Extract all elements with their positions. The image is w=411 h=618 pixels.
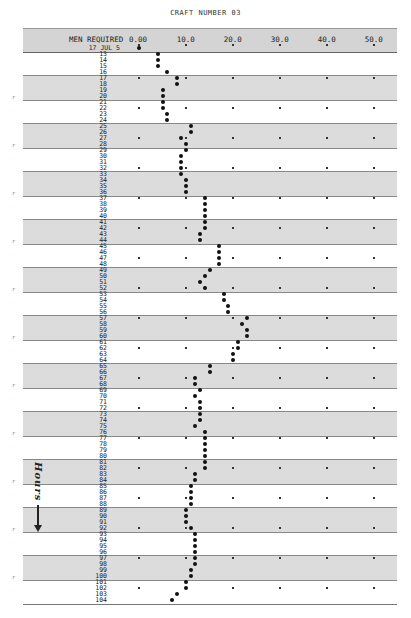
grid-dot xyxy=(138,197,140,199)
data-point xyxy=(203,466,207,470)
grid-dot xyxy=(138,497,140,499)
grid-dot xyxy=(373,137,375,139)
grid-dot xyxy=(279,527,281,529)
data-point xyxy=(193,394,197,398)
hours-annotation: Hours xyxy=(33,462,44,501)
grid-dot xyxy=(373,227,375,229)
data-point xyxy=(203,208,207,212)
grid-dot xyxy=(373,467,375,469)
data-point xyxy=(203,454,207,458)
data-point xyxy=(203,436,207,440)
grid-dot xyxy=(232,347,234,349)
margin-mark: r xyxy=(12,190,15,196)
data-point xyxy=(189,496,193,500)
grid-dot xyxy=(373,497,375,499)
data-point xyxy=(193,550,197,554)
grid-dot xyxy=(373,407,375,409)
grid-dot xyxy=(326,377,328,379)
grid-dot xyxy=(232,377,234,379)
data-point xyxy=(203,220,207,224)
data-point xyxy=(161,106,165,110)
grid-dot xyxy=(326,527,328,529)
grid-dot xyxy=(232,287,234,289)
grid-dot xyxy=(185,407,187,409)
data-point xyxy=(165,112,169,116)
data-point xyxy=(179,160,183,164)
grid-dot xyxy=(232,227,234,229)
grid-dot xyxy=(373,347,375,349)
down-arrow-icon xyxy=(37,505,39,527)
data-point xyxy=(165,118,169,122)
grid-dot xyxy=(138,347,140,349)
data-point xyxy=(184,508,188,512)
margin-mark: r xyxy=(12,478,15,484)
data-point xyxy=(193,532,197,536)
grid-dot xyxy=(326,287,328,289)
data-point xyxy=(175,82,179,86)
data-point xyxy=(189,502,193,506)
data-point xyxy=(156,58,160,62)
data-point xyxy=(203,286,207,290)
grid-dot xyxy=(373,167,375,169)
grid-dot xyxy=(326,437,328,439)
grid-dot xyxy=(232,497,234,499)
data-point xyxy=(208,370,212,374)
data-point xyxy=(203,460,207,464)
data-point xyxy=(203,430,207,434)
data-point xyxy=(198,406,202,410)
data-point xyxy=(179,166,183,170)
data-point xyxy=(184,520,188,524)
grid-dot xyxy=(279,167,281,169)
grid-dot xyxy=(326,467,328,469)
chart-title: CRAFT NUMBER 03 xyxy=(0,9,411,17)
grid-dot xyxy=(279,197,281,199)
grid-dot xyxy=(138,167,140,169)
data-point xyxy=(189,568,193,572)
data-point xyxy=(184,184,188,188)
data-point xyxy=(198,388,202,392)
data-point xyxy=(203,214,207,218)
grid-dot xyxy=(138,137,140,139)
data-point xyxy=(137,46,141,50)
grid-dot xyxy=(185,107,187,109)
grid-dot xyxy=(326,557,328,559)
data-point xyxy=(203,442,207,446)
grid-dot xyxy=(373,287,375,289)
grid-dot xyxy=(138,527,140,529)
data-point xyxy=(203,448,207,452)
data-point xyxy=(184,178,188,182)
margin-mark: r xyxy=(12,286,15,292)
grid-dot xyxy=(138,587,140,589)
data-point xyxy=(189,484,193,488)
x-tick-label: 40.0 xyxy=(318,35,336,44)
data-point xyxy=(236,340,240,344)
grid-dot xyxy=(279,497,281,499)
grid-dot xyxy=(138,557,140,559)
grid-dot xyxy=(138,107,140,109)
x-tick-label: 50.0 xyxy=(365,35,383,44)
data-point xyxy=(222,292,226,296)
margin-mark: r xyxy=(12,334,15,340)
data-point xyxy=(165,70,169,74)
grid-dot xyxy=(279,437,281,439)
data-point xyxy=(175,76,179,80)
grid-dot xyxy=(185,77,187,79)
data-point xyxy=(217,250,221,254)
grid-dot xyxy=(185,377,187,379)
grid-dot xyxy=(138,467,140,469)
grid-dot xyxy=(185,227,187,229)
data-point xyxy=(203,226,207,230)
data-point xyxy=(161,88,165,92)
grid-dot xyxy=(326,107,328,109)
grid-dot xyxy=(138,77,140,79)
grid-dot xyxy=(279,557,281,559)
grid-dot xyxy=(232,557,234,559)
grid-dot xyxy=(232,77,234,79)
margin-mark: r xyxy=(12,382,15,388)
grid-dot xyxy=(279,257,281,259)
margin-mark: r xyxy=(12,142,15,148)
grid-dot xyxy=(279,77,281,79)
data-point xyxy=(231,352,235,356)
grid-dot xyxy=(373,377,375,379)
data-point xyxy=(217,256,221,260)
